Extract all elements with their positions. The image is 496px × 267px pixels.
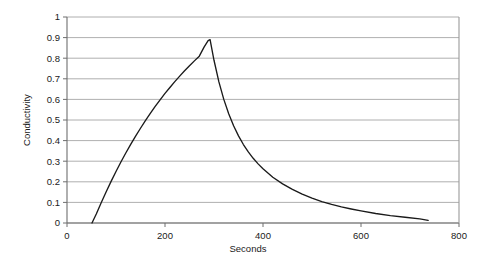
y-axis-title: Conductivity (21, 94, 32, 146)
y-tick-label: 0.1 (47, 197, 60, 208)
x-axis-title: Seconds (230, 243, 267, 254)
chart-background (0, 0, 496, 267)
y-tick-label: 0.8 (47, 53, 60, 64)
x-tick-label: 400 (255, 230, 271, 241)
y-tick-label: 0.3 (47, 156, 60, 167)
x-tick-label: 0 (64, 230, 69, 241)
y-tick-label: 0.5 (47, 114, 60, 125)
chart-container: 00.10.20.30.40.50.60.70.80.91 0200400600… (0, 0, 496, 267)
conductivity-line-chart: 00.10.20.30.40.50.60.70.80.91 0200400600… (0, 0, 496, 267)
x-tick-label: 200 (157, 230, 173, 241)
y-tick-label: 0.7 (47, 73, 60, 84)
y-tick-label: 1 (55, 11, 60, 22)
y-tick-label: 0.4 (47, 135, 60, 146)
x-tick-label: 600 (353, 230, 369, 241)
x-tick-label: 800 (451, 230, 467, 241)
y-tick-label: 0.2 (47, 176, 60, 187)
y-tick-label: 0.9 (47, 32, 60, 43)
y-tick-label: 0 (55, 217, 60, 228)
y-tick-label: 0.6 (47, 94, 60, 105)
